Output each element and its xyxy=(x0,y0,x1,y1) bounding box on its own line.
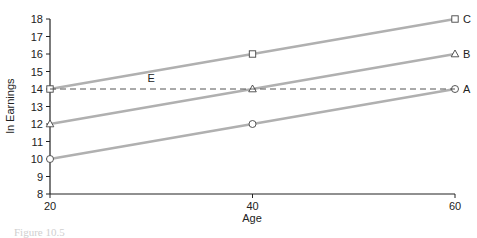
y-tick-label: 14 xyxy=(31,83,43,95)
series-label: E xyxy=(148,72,155,84)
series-a: A xyxy=(47,83,472,163)
svg-text:ln Earnings: ln Earnings xyxy=(4,78,16,134)
circle-marker-icon xyxy=(47,156,54,163)
x-axis-label: Age xyxy=(242,212,262,224)
y-tick-label: 15 xyxy=(31,66,43,78)
y-tick-label: 9 xyxy=(37,171,43,183)
y-tick-label: 10 xyxy=(31,153,43,165)
series-label: C xyxy=(463,13,471,25)
circle-marker-icon xyxy=(249,121,256,128)
y-tick-label: 18 xyxy=(31,13,43,25)
square-marker-icon xyxy=(249,51,255,57)
series-b: B xyxy=(46,48,470,127)
y-tick-label: 17 xyxy=(31,31,43,43)
x-tick-label: 20 xyxy=(44,200,56,212)
series-label: A xyxy=(463,83,471,95)
series-group: ABCE xyxy=(46,13,471,163)
x-tick-label: 60 xyxy=(449,200,461,212)
series-c: C xyxy=(47,13,471,92)
y-tick-label: 8 xyxy=(37,188,43,200)
line-chart: ln Earnings 89101112131415161718204060 A… xyxy=(0,0,477,237)
x-tick-label: 40 xyxy=(246,200,258,212)
square-marker-icon xyxy=(452,16,458,22)
y-tick-label: 12 xyxy=(31,118,43,130)
y-axis-label: ln Earnings xyxy=(4,78,16,134)
axes: 89101112131415161718204060 xyxy=(31,13,461,212)
series-label: B xyxy=(463,48,470,60)
y-tick-label: 11 xyxy=(32,136,43,148)
figure-caption: Figure 10.5 xyxy=(14,226,65,237)
y-tick-label: 13 xyxy=(31,101,43,113)
y-tick-label: 16 xyxy=(31,48,43,60)
